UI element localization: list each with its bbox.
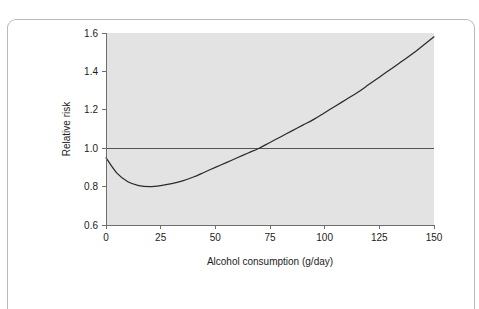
y-tick-label: 1.6 <box>84 28 98 39</box>
y-tick-label: 1.2 <box>84 104 98 115</box>
y-tick-label: 0.8 <box>84 181 98 192</box>
x-tick-label: 125 <box>371 232 388 243</box>
y-axis-ticks: 0.60.81.01.21.41.6 <box>84 28 106 231</box>
y-tick-label: 0.6 <box>84 220 98 231</box>
plot-background <box>106 33 434 225</box>
y-tick-label: 1.4 <box>84 66 98 77</box>
x-tick-label: 75 <box>264 232 276 243</box>
x-tick-label: 0 <box>103 232 109 243</box>
x-tick-label: 100 <box>316 232 333 243</box>
x-tick-label: 50 <box>210 232 222 243</box>
y-tick-label: 1.0 <box>84 143 98 154</box>
y-axis-title: Relative risk <box>61 101 72 156</box>
x-axis-title: Alcohol consumption (g/day) <box>207 256 333 267</box>
x-axis-ticks: 0255075100125150 <box>103 225 443 243</box>
x-tick-label: 150 <box>426 232 443 243</box>
x-tick-label: 25 <box>155 232 167 243</box>
